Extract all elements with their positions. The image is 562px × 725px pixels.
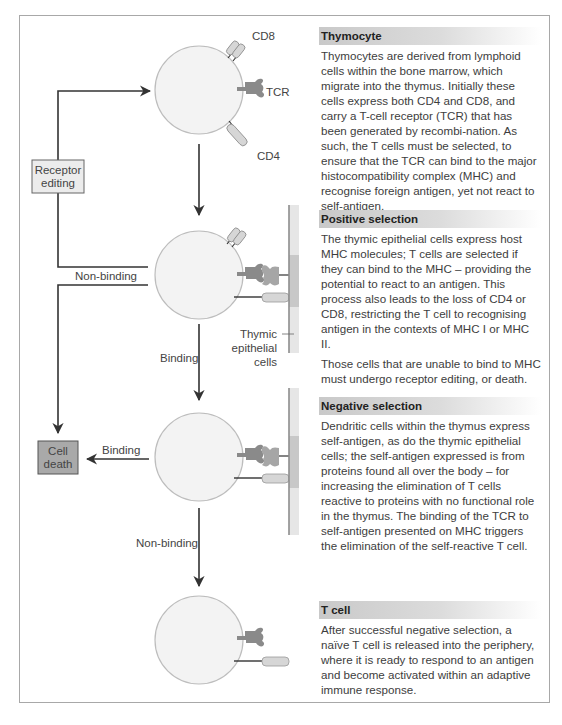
label-binding-negative: Binding <box>102 444 140 456</box>
panel-title: Thymocyte <box>319 27 541 45</box>
cd8-label: CD8 <box>252 30 275 42</box>
panel-text: After successful negative selection, a n… <box>321 622 541 697</box>
panel-title: Negative selection <box>319 397 541 415</box>
cell-death-label-1: Cell <box>48 445 68 457</box>
panel-title: T cell <box>319 601 541 619</box>
arrow-receptor-editing-to-thymocyte <box>58 91 150 160</box>
cd4-receptor-icon <box>262 657 289 666</box>
receptor-editing-label-1: Receptor <box>35 164 82 176</box>
panel-text: Dendritic cells within the thymus expres… <box>321 418 541 553</box>
line-nonbinding-to-receptor-editing <box>58 193 148 267</box>
mhc-molecule-icon <box>262 265 279 285</box>
cell-death-label-2: death <box>44 458 73 470</box>
mhc-molecule-icon <box>262 446 279 466</box>
panel-text: Those cells that are unable to bind to M… <box>321 356 541 386</box>
thymic-label-2: epithelial <box>232 342 277 354</box>
label-binding-positive: Binding <box>160 352 198 364</box>
cd4-label: CD4 <box>257 150 281 162</box>
panel-negative-selection: Negative selection Dendritic cells withi… <box>319 397 541 553</box>
cd4-receptor-icon <box>262 293 289 302</box>
panel-title: Positive selection <box>319 210 541 228</box>
panel-thymocyte: Thymocyte Thymocytes are derived from ly… <box>319 27 541 213</box>
thymic-label-3: cells <box>254 356 277 368</box>
cd8-receptor-icon <box>225 40 246 61</box>
arrow-nonbinding-to-cell-death <box>58 285 148 433</box>
panel-t-cell: T cell After successful negative selecti… <box>319 601 541 697</box>
panel-text: The thymic epithelial cells express host… <box>321 231 541 351</box>
cd4-receptor-icon <box>262 474 289 483</box>
label-non-binding-positive: Non-binding <box>75 270 137 282</box>
label-non-binding-negative: Non-binding <box>136 537 198 549</box>
receptor-editing-label-2: editing <box>41 177 75 189</box>
tcr-label: TCR <box>266 86 290 98</box>
thymic-epithelium-strip <box>289 388 299 535</box>
negative-selection-cell <box>155 413 289 501</box>
thymic-label-1: Thymic <box>240 328 277 340</box>
panel-text: Thymocytes are derived from lymphoid cel… <box>321 48 541 213</box>
thymocyte-cell: CD8 TCR CD4 <box>155 30 290 162</box>
cd4-receptor-icon <box>225 121 248 147</box>
thymic-epithelium-strip <box>282 205 299 353</box>
positive-selection-cell <box>155 227 289 319</box>
panel-positive-selection: Positive selection The thymic epithelial… <box>319 210 541 386</box>
t-cell <box>155 596 289 684</box>
